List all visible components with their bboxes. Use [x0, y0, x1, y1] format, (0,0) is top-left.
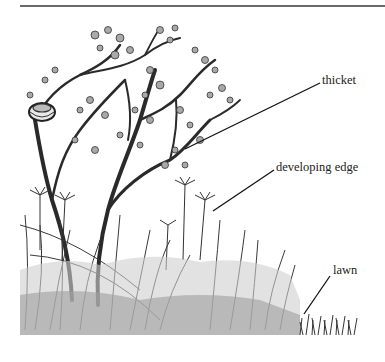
- thicket-leader-line: [185, 83, 320, 149]
- label-thicket: thicket: [322, 74, 356, 87]
- dense-groundcover: [20, 257, 300, 335]
- developing-edge-leader-line: [213, 170, 274, 211]
- lawn-leader-line: [304, 276, 330, 314]
- succession-illustration: [0, 0, 385, 362]
- short-lawn-grass: [300, 314, 357, 335]
- tree-branch: [80, 38, 180, 75]
- bird-nest: [29, 103, 55, 121]
- tree-branch: [125, 80, 130, 140]
- tree-branch: [210, 100, 240, 120]
- label-lawn: lawn: [333, 264, 357, 277]
- label-developing-edge: developing edge: [276, 161, 358, 174]
